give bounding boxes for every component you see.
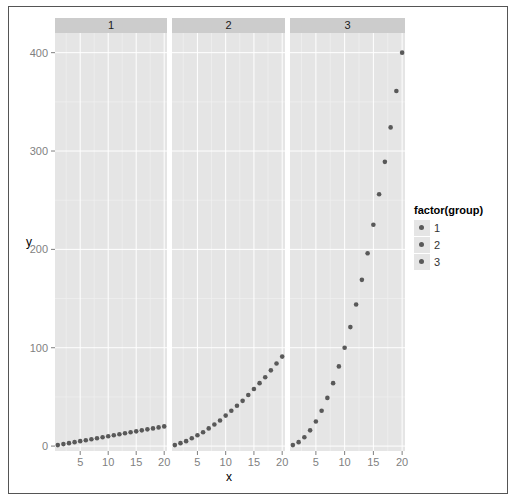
data-point: [212, 422, 217, 427]
facet-label: 2: [225, 19, 231, 31]
data-point: [291, 443, 296, 448]
data-point: [95, 436, 100, 441]
y-tick-label: 200: [30, 243, 48, 255]
y-tick-label: 0: [42, 440, 48, 452]
data-point: [235, 403, 240, 408]
data-point: [360, 278, 365, 283]
x-tick-label: 15: [367, 456, 379, 468]
data-point: [280, 354, 285, 359]
data-point: [117, 432, 122, 437]
x-axis-title: x: [226, 470, 232, 484]
data-point: [342, 345, 347, 350]
x-tick-label: 10: [220, 456, 232, 468]
x-tick-label: 20: [396, 456, 408, 468]
data-point: [173, 443, 178, 448]
data-point: [61, 442, 66, 447]
data-point: [302, 435, 307, 440]
data-point: [388, 125, 393, 130]
data-point: [72, 440, 77, 445]
data-point: [112, 433, 117, 438]
data-point: [201, 430, 206, 435]
data-point: [296, 440, 301, 445]
x-tick-label: 15: [248, 456, 260, 468]
x-tick-label: 15: [130, 456, 142, 468]
data-point: [156, 425, 161, 430]
data-point: [84, 438, 89, 443]
data-point: [331, 381, 336, 386]
y-tick-label: 100: [30, 342, 48, 354]
x-tick-label: 20: [158, 456, 170, 468]
data-point: [223, 413, 228, 418]
x-tick-label: 5: [77, 456, 83, 468]
data-point: [134, 429, 139, 434]
data-point: [252, 387, 257, 392]
data-point: [240, 399, 245, 404]
facet-label: 3: [344, 19, 350, 31]
data-point: [365, 251, 370, 256]
data-point: [128, 430, 133, 435]
data-point: [269, 368, 274, 373]
data-point: [257, 381, 262, 386]
legend-key-point-icon: [414, 254, 430, 270]
legend-item-1: 1: [414, 219, 483, 236]
data-point: [195, 433, 200, 438]
data-point: [319, 408, 324, 413]
data-point: [263, 375, 268, 380]
data-point: [100, 435, 105, 440]
data-point: [162, 424, 167, 429]
x-tick-label: 10: [339, 456, 351, 468]
y-tick-label: 400: [30, 47, 48, 59]
legend-title: factor(group): [414, 204, 483, 216]
data-point: [89, 437, 94, 442]
data-point: [400, 50, 405, 55]
data-point: [337, 364, 342, 369]
x-tick-label: 5: [313, 456, 319, 468]
data-point: [371, 222, 376, 227]
legend-key-point-icon: [414, 220, 430, 236]
data-point: [218, 418, 223, 423]
data-point: [67, 441, 72, 446]
data-point: [78, 439, 83, 444]
data-point: [325, 396, 330, 401]
data-point: [229, 408, 234, 413]
data-point: [145, 427, 150, 432]
data-point: [383, 160, 388, 165]
data-point: [314, 419, 319, 424]
data-point: [184, 439, 189, 444]
data-point: [123, 431, 128, 436]
legend-item-2: 2: [414, 236, 483, 253]
data-point: [377, 192, 382, 197]
data-point: [106, 434, 111, 439]
data-point: [354, 302, 359, 307]
data-point: [178, 441, 183, 446]
data-point: [246, 393, 251, 398]
data-point: [56, 443, 61, 448]
x-tick-label: 5: [194, 456, 200, 468]
data-point: [189, 436, 194, 441]
y-tick-label: 300: [30, 145, 48, 157]
legend-item-3: 3: [414, 253, 483, 270]
x-tick-label: 10: [102, 456, 114, 468]
data-point: [140, 428, 145, 433]
x-tick-label: 20: [276, 456, 288, 468]
legend-key-point-icon: [414, 237, 430, 253]
data-point: [308, 428, 313, 433]
facet-label: 1: [108, 19, 114, 31]
y-axis-title: y: [26, 235, 32, 249]
legend: factor(group) 1 2 3: [414, 204, 483, 270]
data-point: [151, 426, 156, 431]
data-point: [274, 361, 279, 366]
data-point: [394, 89, 399, 94]
data-point: [206, 426, 211, 431]
data-point: [348, 325, 353, 330]
